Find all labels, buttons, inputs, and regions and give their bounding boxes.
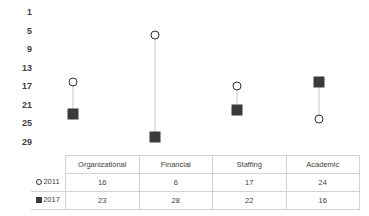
data-point-marker-2011: [151, 31, 160, 40]
y-axis-tick-label: 9: [0, 44, 32, 54]
table-body: 20111661724201723282216: [31, 174, 360, 210]
chart-container: 1591317212529 OrganizationalFinancialSta…: [0, 0, 369, 216]
table-cell: 24: [286, 174, 360, 192]
legend-entry-2011: 2011: [31, 174, 66, 192]
table-column-header: Financial: [139, 156, 213, 174]
table-row: 20111661724: [31, 174, 360, 192]
table-corner-cell: [31, 156, 66, 174]
legend-entry-2017: 2017: [31, 192, 66, 210]
category-column-academic: [278, 0, 360, 155]
category-column-organizational: [32, 0, 114, 155]
connector-line: [319, 82, 320, 119]
table-cell: 23: [66, 192, 140, 210]
legend-entry-wrap: 2011: [36, 178, 59, 186]
data-point-marker-2011: [69, 77, 78, 86]
data-point-marker-2017: [314, 76, 325, 87]
category-column-staffing: [196, 0, 278, 155]
legend-label: 2017: [43, 196, 60, 204]
table-head: OrganizationalFinancialStaffingAcademic: [31, 156, 360, 174]
y-axis-tick-label: 1: [0, 7, 32, 17]
category-column-financial: [114, 0, 196, 155]
table-cell: 17: [213, 174, 287, 192]
y-axis-tick-label: 17: [0, 81, 32, 91]
y-axis-tick-label: 13: [0, 63, 32, 73]
legend-label: 2011: [43, 178, 59, 186]
table-cell: 22: [213, 192, 287, 210]
y-axis: 1591317212529: [0, 0, 32, 155]
plot-area: 1591317212529: [0, 0, 369, 155]
data-point-marker-2011: [233, 82, 242, 91]
legend-entry-wrap: 2017: [36, 196, 60, 204]
table-cell: 16: [286, 192, 360, 210]
table-column-header: Academic: [286, 156, 360, 174]
data-table: OrganizationalFinancialStaffingAcademic …: [31, 155, 360, 210]
table-row: 201723282216: [31, 192, 360, 210]
table-header-row: OrganizationalFinancialStaffingAcademic: [31, 156, 360, 174]
table-cell: 16: [66, 174, 140, 192]
table-cell: 28: [139, 192, 213, 210]
table-column-header: Staffing: [213, 156, 287, 174]
y-axis-tick-label: 25: [0, 118, 32, 128]
data-point-marker-2011: [315, 114, 324, 123]
y-axis-tick-label: 5: [0, 26, 32, 36]
data-point-marker-2017: [232, 104, 243, 115]
data-point-marker-2017: [150, 132, 161, 143]
data-point-marker-2017: [68, 109, 79, 120]
y-axis-tick-label: 21: [0, 100, 32, 110]
filled-square-icon: [36, 197, 42, 203]
y-axis-tick-label: 29: [0, 137, 32, 147]
table-column-header: Organizational: [66, 156, 140, 174]
connector-line: [155, 35, 156, 137]
data-table-container: OrganizationalFinancialStaffingAcademic …: [31, 155, 360, 210]
series-plot: [32, 0, 360, 155]
table-cell: 6: [139, 174, 213, 192]
open-circle-icon: [36, 179, 42, 185]
